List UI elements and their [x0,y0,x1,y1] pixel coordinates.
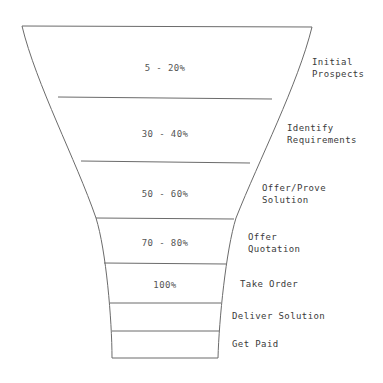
funnel-divider-3 [96,218,234,219]
stage-percent-offer-quotation: 70 - 80% [142,238,189,248]
stage-label-line: Initial [312,57,364,69]
funnel-divider-4 [104,263,226,264]
stage-label-initial-prospects: InitialProspects [312,57,364,80]
stage-label-deliver-solution: Deliver Solution [232,311,325,323]
stage-label-line: Deliver Solution [232,311,325,323]
stage-label-offer-prove-solution: Offer/ProveSolution [262,183,326,206]
stage-label-line: Prospects [312,68,364,80]
funnel-diagram-canvas: 5 - 20%InitialProspects30 - 40%IdentifyR… [0,0,383,383]
stage-label-line: Take Order [240,279,298,291]
stage-percent-take-order: 100% [153,280,176,290]
funnel-top-edge [22,26,312,27]
stage-label-get-paid: Get Paid [232,339,279,351]
funnel-left-edge [22,26,112,358]
funnel-divider-1 [58,97,272,99]
stage-label-line: Offer [248,232,300,244]
stage-label-line: Quotation [248,243,300,255]
stage-label-line: Requirements [287,134,357,146]
stage-label-line: Solution [262,194,326,206]
stage-percent-offer-prove-solution: 50 - 60% [142,189,189,199]
stage-label-take-order: Take Order [240,279,298,291]
stage-label-line: Get Paid [232,339,279,351]
stage-label-line: Offer/Prove [262,183,326,195]
funnel-divider-2 [81,161,250,163]
stage-label-line: Identify [287,123,357,135]
stage-label-identify-requirements: IdentifyRequirements [287,123,357,146]
stage-percent-initial-prospects: 5 - 20% [145,63,186,73]
stage-label-offer-quotation: OfferQuotation [248,232,300,255]
stage-percent-identify-requirements: 30 - 40% [142,129,189,139]
